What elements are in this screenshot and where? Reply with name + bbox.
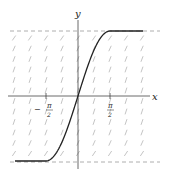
slope-mark [29,88,31,94]
slope-mark [61,130,63,136]
slope-mark [124,36,127,41]
slope-mark [61,119,63,125]
svg-text:π: π [46,102,52,110]
slope-mark [93,130,95,136]
slope-mark [29,77,31,83]
slope-mark [92,151,95,156]
y-axis-label: y [74,8,81,19]
slope-mark [13,56,15,62]
slope-mark [13,140,15,145]
slope-mark [140,151,143,156]
slope-mark [12,36,15,41]
slope-mark [45,77,47,83]
slope-mark [61,88,63,94]
svg-text:2: 2 [46,111,51,118]
slope-mark [13,109,15,115]
slope-mark [124,151,127,156]
slope-mark [109,140,111,145]
slope-mark [45,46,48,51]
tick-label-neg-pi-half: − π 2 [34,102,53,118]
slope-mark [141,56,143,62]
tick-label-pi-half: π 2 [107,102,114,118]
slope-mark [93,67,95,73]
slope-mark [61,109,63,115]
slope-mark [125,46,128,51]
slope-mark [93,88,95,94]
slope-mark [28,151,31,156]
slope-mark [45,140,47,145]
slope-mark [29,130,31,136]
slope-mark [109,56,111,62]
slope-mark [45,119,47,125]
slope-mark [29,67,31,73]
slope-mark [141,119,143,125]
slope-mark [141,109,143,115]
slope-mark [29,46,32,51]
slope-mark [61,56,63,62]
slope-mark [45,130,47,136]
slope-mark [109,46,112,51]
slope-mark [141,46,144,51]
slope-mark [61,67,63,73]
slope-mark [61,77,63,83]
slope-mark [109,119,111,125]
slope-mark [125,77,127,83]
slope-mark [125,140,127,145]
svg-text:π: π [107,102,113,110]
slope-mark [45,56,47,62]
slope-mark [141,88,143,94]
slope-mark [45,88,47,94]
slope-mark [29,109,31,115]
svg-text:−: − [34,105,41,114]
slope-mark [13,130,15,136]
diagram-canvas: x y − π 2 π 2 [0,0,171,173]
slope-mark [93,140,95,145]
slope-mark [125,56,127,62]
slope-mark [13,77,15,83]
slope-mark [141,77,143,83]
slope-mark [125,88,127,94]
slope-mark [12,151,15,156]
slope-mark [93,119,95,125]
slope-mark [125,98,127,104]
slope-mark [108,36,111,41]
slope-mark [108,151,111,156]
slope-mark [61,46,64,51]
slope-mark [29,98,31,104]
slope-mark [13,67,15,73]
slope-mark [44,36,47,41]
svg-text:2: 2 [107,111,112,118]
slope-mark [28,36,31,41]
slope-mark [13,46,16,51]
slope-mark [61,98,63,104]
slope-mark [29,119,31,125]
slope-mark [141,67,143,73]
slope-mark [109,130,111,136]
slope-mark [125,119,127,125]
slope-mark [141,98,143,104]
slope-mark [44,151,47,156]
slope-mark [13,98,15,104]
slope-mark [60,151,63,156]
slope-mark [29,140,31,145]
slope-mark [60,36,63,41]
slope-mark [13,88,15,94]
slope-mark [140,36,143,41]
slope-mark [125,130,127,136]
slope-mark [29,56,31,62]
x-axis-label: x [152,91,158,102]
slope-mark [92,36,95,41]
slope-mark [109,88,111,94]
slope-mark [93,56,95,62]
slope-mark [13,119,15,125]
slope-mark [109,77,111,83]
slope-mark [125,109,127,115]
slope-mark [109,67,111,73]
slope-mark [141,130,143,136]
slope-mark [93,109,95,115]
slope-mark [93,98,95,104]
slope-mark [141,140,143,145]
slope-mark [45,67,47,73]
slope-mark [125,67,127,73]
slope-mark [93,77,95,83]
